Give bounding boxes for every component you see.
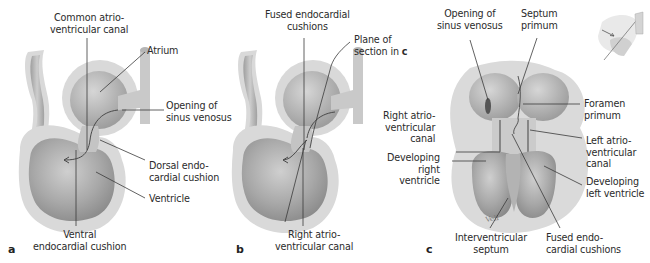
label-fused-endocardial-cushions-c: Fused endo- cardial cushions — [546, 232, 621, 255]
panel-c-heart-section: Vell — [450, 61, 588, 233]
panel-letter-b: b — [236, 243, 244, 256]
label-common-av-canal: Common atrio- ventricular canal — [50, 12, 128, 35]
label-plane-of-section: Plane of section in c — [354, 34, 407, 57]
label-opening-sinus-venosus-a: Opening of sinus venosus — [166, 100, 232, 123]
panel-c-reference: c — [402, 46, 408, 57]
panel-letter-a: a — [8, 243, 15, 256]
section-plane-thumbnail — [598, 12, 643, 60]
label-opening-sinus-venosus-c: Opening of sinus venosus — [437, 8, 503, 31]
illustration: Vell — [0, 0, 650, 263]
panel-letter-c: c — [426, 243, 433, 256]
label-right-av-canal-b: Right atrio- ventricular canal — [275, 229, 353, 252]
label-developing-right-ventricle: Developing right ventricle — [387, 152, 440, 187]
label-interventricular-septum: Interventricular septum — [455, 232, 527, 255]
label-septum-primum: Septum primum — [521, 8, 558, 31]
label-developing-left-ventricle: Developing left ventricle — [586, 176, 644, 199]
panel-b-heart — [232, 47, 363, 233]
label-fused-endocardial-cushions-b: Fused endocardial cushions — [265, 9, 350, 32]
label-dorsal-endocardial-cushion: Dorsal endo- cardial cushion — [149, 160, 219, 183]
label-left-av-canal: Left atrio- ventricular canal — [586, 135, 636, 170]
label-right-av-canal-c: Right atrio- ventricular canal — [383, 110, 435, 145]
label-foramen-primum: Foramen primum — [584, 98, 625, 121]
panel-a-heart — [19, 47, 150, 233]
label-atrium: Atrium — [147, 45, 178, 57]
embryonic-heart-figure: Vell Common atrio- ventricular canal Atr… — [0, 0, 650, 263]
label-ventral-endocardial-cushion: Ventral endocardial cushion — [33, 229, 126, 252]
label-ventricle: Ventricle — [149, 193, 190, 205]
